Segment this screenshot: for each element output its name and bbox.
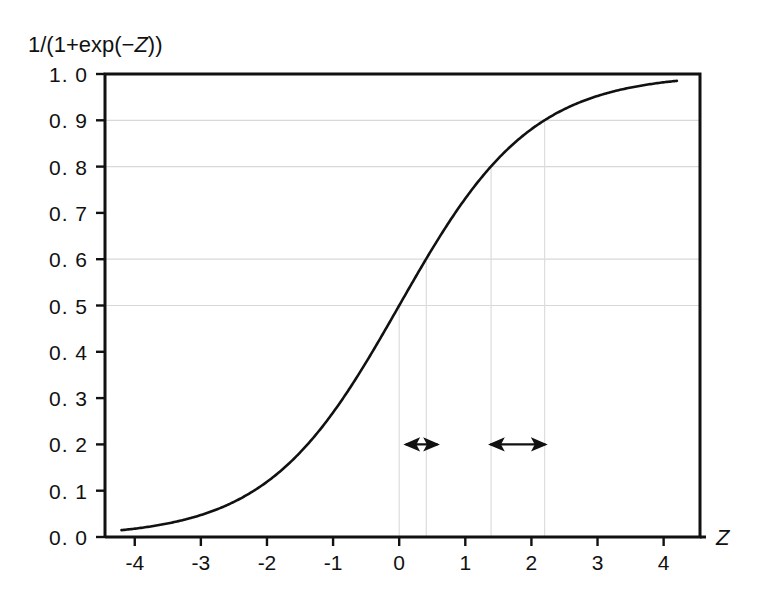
tick-labels-y: 0. 00. 10. 20. 30. 40. 50. 60. 70. 80. 9…: [49, 63, 88, 549]
x-tick-label-7: 3: [592, 551, 604, 574]
y-tick-label-5: 0. 5: [49, 295, 88, 318]
y-tick-label-3: 0. 3: [49, 387, 88, 410]
gridlines-horizontal: [105, 120, 700, 305]
y-tick-label-9: 0. 9: [49, 109, 88, 132]
y-axis-title-suffix: )): [148, 32, 163, 57]
x-axis-title: Z: [715, 525, 731, 550]
y-tick-label-2: 0. 2: [49, 433, 88, 456]
x-tick-label-6: 2: [526, 551, 538, 574]
y-axis-title: 1/(1+exp(−Z)): [28, 32, 163, 57]
y-tick-label-6: 0. 6: [49, 248, 88, 271]
logistic-curve-figure: -4-3-2-101234 0. 00. 10. 20. 30. 40. 50.…: [0, 0, 766, 611]
y-tick-label-4: 0. 4: [49, 341, 88, 364]
y-tick-label-8: 0. 8: [49, 156, 88, 179]
y-axis-title-prefix: 1/(1+exp(−: [28, 32, 134, 57]
y-tick-label-1: 0. 1: [49, 480, 88, 503]
x-tick-label-8: 4: [658, 551, 670, 574]
y-tick-label-10: 1. 0: [49, 63, 88, 86]
x-tick-label-4: 0: [393, 551, 405, 574]
y-tick-label-7: 0. 7: [49, 202, 88, 225]
tick-labels-x: -4-3-2-101234: [125, 551, 669, 574]
x-tick-label-1: -3: [192, 551, 211, 574]
x-tick-label-3: -1: [324, 551, 343, 574]
x-tick-label-5: 1: [459, 551, 471, 574]
y-tick-label-0: 0. 0: [49, 526, 88, 549]
droplines-vertical: [399, 120, 544, 537]
x-tick-label-0: -4: [125, 551, 144, 574]
x-tick-label-2: -2: [258, 551, 277, 574]
chart-canvas: -4-3-2-101234 0. 00. 10. 20. 30. 40. 50.…: [0, 0, 766, 611]
